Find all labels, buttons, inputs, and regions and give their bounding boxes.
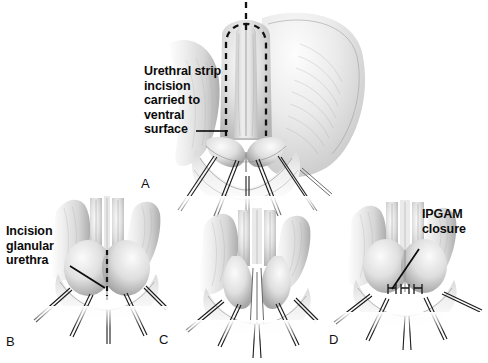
panel-b-bottom-fade <box>20 306 180 328</box>
panel-b-glans-right <box>102 240 150 296</box>
annotation-incision-glanular-urethra: Incision glanular urethra <box>6 224 54 268</box>
panel-letter-d: D <box>329 332 338 347</box>
panel-letter-b: B <box>6 334 15 349</box>
panel-letter-c: C <box>159 332 168 347</box>
figure-canvas <box>0 0 488 363</box>
panel-d-bottom-fade <box>325 312 485 332</box>
annotation-urethral-strip: Urethral strip incision carried to ventr… <box>144 64 221 137</box>
annotation-ipgam-closure: IPGAM closure <box>422 207 466 236</box>
panel-letter-a: A <box>141 176 150 191</box>
panel-c-bottom-fade <box>175 320 340 340</box>
